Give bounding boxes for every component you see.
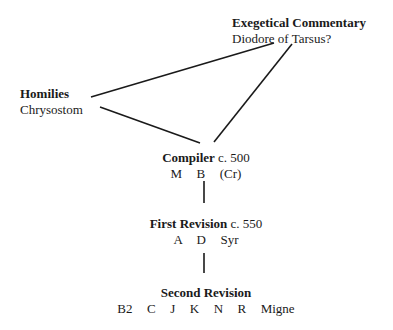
node-witnesses: B2 C J K N R Migne: [117, 301, 294, 317]
node-second-revision: Second Revision B2 C J K N R Migne: [117, 285, 294, 317]
node-title: Homilies: [20, 86, 69, 101]
node-compiler: Compiler c. 500 M B (Cr): [162, 150, 250, 182]
node-homilies: Homilies Chrysostom: [20, 86, 83, 118]
node-date: c. 550: [227, 216, 262, 231]
node-title: Compiler: [162, 150, 215, 165]
edge-homilies-commentary: [91, 43, 274, 97]
node-subtitle: Diodore of Tarsus?: [232, 31, 366, 47]
node-exegetical-commentary: Exegetical Commentary Diodore of Tarsus?: [232, 15, 366, 47]
node-first-revision: First Revision c. 550 A D Syr: [150, 216, 263, 248]
edge-homilies-compiler: [100, 107, 200, 143]
node-title: Exegetical Commentary: [232, 15, 366, 30]
edge-commentary-compiler: [214, 44, 292, 142]
node-witnesses: M B (Cr): [162, 166, 250, 182]
node-title: First Revision: [150, 216, 228, 231]
node-witnesses: A D Syr: [150, 232, 263, 248]
node-title: Second Revision: [161, 285, 252, 300]
node-subtitle: Chrysostom: [20, 102, 83, 118]
node-date: c. 500: [215, 150, 250, 165]
